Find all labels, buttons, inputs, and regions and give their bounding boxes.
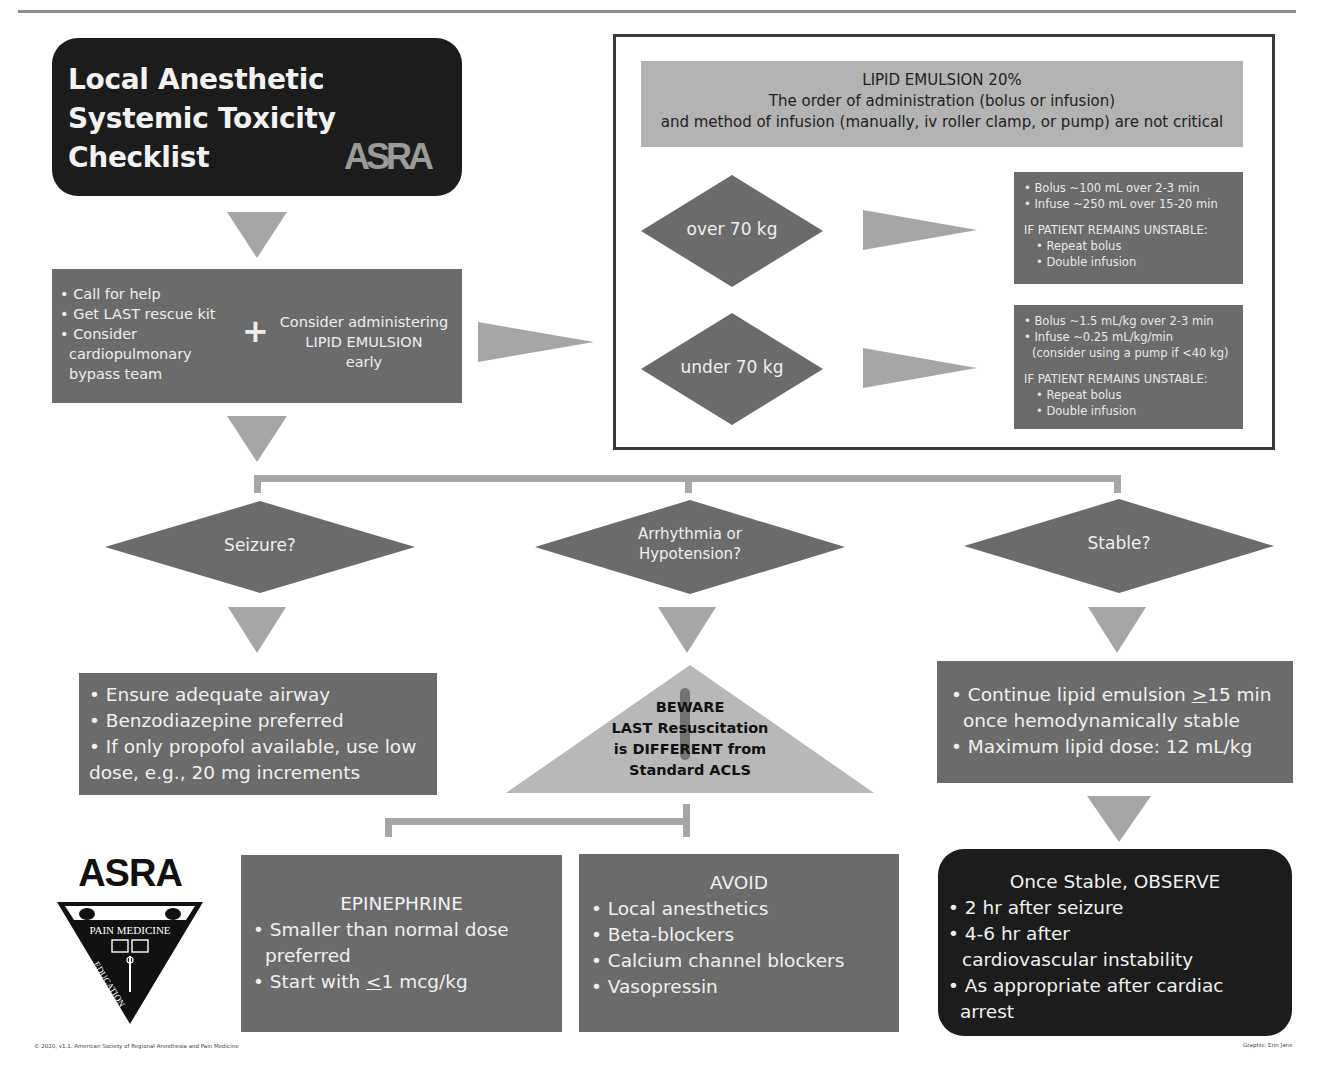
connector-drop bbox=[254, 475, 261, 493]
connector-drop bbox=[385, 818, 392, 837]
lipid-header: LIPID EMULSION 20% The order of administ… bbox=[641, 61, 1243, 147]
arrow-right-icon bbox=[863, 348, 977, 388]
dose-box-over-70kg: • Bolus ~100 mL over 2-3 min • Infuse ~2… bbox=[1014, 172, 1243, 284]
asra-wordmark: ASRA bbox=[78, 852, 182, 894]
plus-icon: + bbox=[242, 312, 269, 350]
title-line-2: Systemic Toxicity bbox=[68, 99, 336, 138]
consider-lipid-text: Consider administering LIPID EMULSION ea… bbox=[278, 312, 450, 372]
top-rule bbox=[18, 10, 1296, 13]
arrow-right-icon bbox=[478, 322, 594, 362]
arrow-down-icon bbox=[1087, 796, 1151, 842]
seizure-management-box: • Ensure adequate airway • Benzodiazepin… bbox=[79, 673, 437, 795]
avoid-box: AVOID • Local anesthetics • Beta-blocker… bbox=[579, 854, 899, 1032]
arrow-down-icon bbox=[227, 212, 287, 258]
title-line-1: Local Anesthetic bbox=[68, 60, 336, 99]
beware-text: BEWARE LAST Resuscitation is DIFFERENT f… bbox=[590, 697, 790, 781]
arrow-down-icon bbox=[1088, 607, 1146, 653]
arrow-down-icon bbox=[227, 416, 287, 462]
observe-box: Once Stable, OBSERVE • 2 hr after seizur… bbox=[938, 849, 1292, 1036]
connector-drop bbox=[1114, 475, 1121, 493]
connector-drop bbox=[683, 804, 690, 837]
dose-box-under-70kg: • Bolus ~1.5 mL/kg over 2-3 min • Infuse… bbox=[1014, 305, 1243, 429]
list-item: • Call for help bbox=[60, 284, 216, 304]
stable-management-box: • Continue lipid emulsion >15 min once h… bbox=[937, 661, 1293, 783]
title-line-3: Checklist bbox=[68, 138, 336, 177]
page-title: Local Anesthetic Systemic Toxicity Check… bbox=[68, 60, 336, 177]
treatment-connector bbox=[385, 818, 690, 825]
decision-arrhythmia-hypotension: Arrhythmia or Hypotension? bbox=[535, 500, 845, 594]
list-item: • Get LAST rescue kit bbox=[60, 304, 216, 324]
graphic-credit: Graphic: Erin Janx bbox=[1243, 1042, 1292, 1048]
arrow-right-icon bbox=[863, 210, 977, 250]
asra-pain-medicine-logo: ASRA PAIN MEDICINE EDUCATION RESEARCH bbox=[55, 852, 205, 1030]
decision-stable: Stable? bbox=[964, 499, 1274, 593]
svg-text:PAIN MEDICINE: PAIN MEDICINE bbox=[89, 924, 170, 936]
epinephrine-box: EPINEPHRINE • Smaller than normal dose p… bbox=[241, 855, 562, 1032]
asra-logo-small: ASRA bbox=[344, 136, 430, 178]
arrow-down-icon bbox=[658, 607, 716, 653]
copyright-text: © 2020, v1.1. American Society of Region… bbox=[34, 1043, 239, 1049]
arrow-down-icon bbox=[228, 607, 286, 653]
connector-drop bbox=[685, 475, 692, 493]
list-item: • Consider cardiopulmonary bypass team bbox=[60, 324, 209, 384]
decision-over-70kg: over 70 kg bbox=[641, 175, 823, 287]
decision-seizure: Seizure? bbox=[105, 501, 415, 593]
decision-under-70kg: under 70 kg bbox=[641, 313, 823, 425]
